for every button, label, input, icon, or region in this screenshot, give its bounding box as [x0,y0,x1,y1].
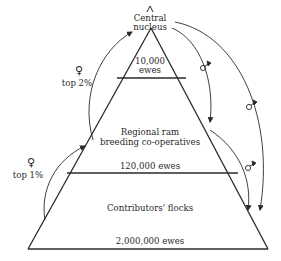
female-arrow-top2 [89,32,132,140]
female-flow-arrows [44,32,132,220]
regional-label-line1: Regional ram [121,127,180,137]
male-arrow-nucleus-to-contributors [175,22,263,210]
regional-label-line2: breeding co-operatives [100,137,200,147]
female-icon: ♀ [27,157,35,168]
female-icon: ♀ [75,65,83,76]
male-icon [245,161,256,171]
male-arrow-regional-to-contributors [210,130,249,210]
male-arrow-nucleus-to-regional [172,28,211,122]
breeding-pyramid-diagram: Central nucleus 10,000 ewes Regional ram… [0,0,281,261]
male-flow-arrows [172,22,263,210]
contributors-label: Contributors' flocks [107,203,193,213]
apex-arrow-icon [147,6,153,12]
contributors-count: 2,000,000 ewes [116,236,184,246]
nucleus-count-line2: ewes [139,65,161,75]
male-symbol-icons [200,61,257,171]
male-icon [200,61,211,71]
nucleus-label-line2: nucleus [133,22,167,32]
female-upper-label: top 2% [62,78,93,88]
female-lower-label: top 1% [13,170,44,180]
regional-count: 120,000 ewes [120,161,180,171]
